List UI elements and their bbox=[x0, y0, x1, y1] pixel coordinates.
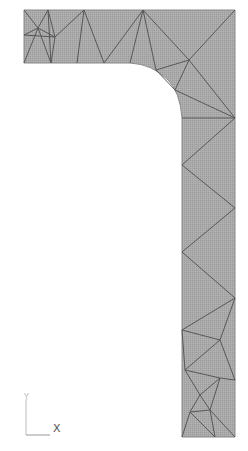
axis-triad bbox=[26, 400, 50, 435]
y-axis-label: Y bbox=[24, 393, 29, 402]
x-axis-label: X bbox=[53, 422, 61, 435]
mesh-domain bbox=[24, 10, 235, 437]
fe-mesh-diagram bbox=[0, 0, 248, 451]
